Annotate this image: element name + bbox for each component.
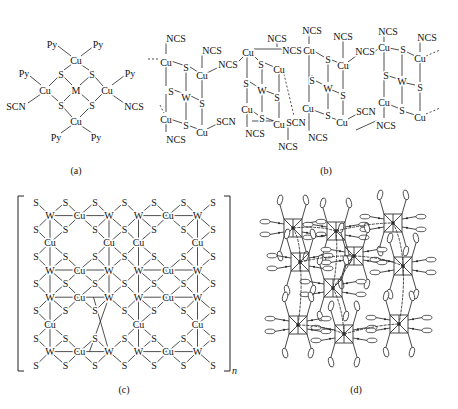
- panel-d-framework: [260, 189, 436, 367]
- atom-cu: Cu: [74, 265, 86, 276]
- atom-cu: Cu: [242, 47, 254, 58]
- atom-s: S: [181, 305, 187, 316]
- atom-s: S: [92, 333, 98, 344]
- panel-c-caption: (c): [118, 384, 129, 396]
- panel-b-structure: NCSCuNCSSCuNCSSWSCuSCuSCNNCSCuNCSNCSSCuS…: [148, 25, 440, 178]
- atom-w: W: [134, 210, 144, 221]
- atom-cu: Cu: [160, 114, 172, 125]
- atom-w: W: [104, 346, 114, 357]
- atom-s: S: [92, 360, 98, 371]
- atom-s: S: [89, 69, 95, 80]
- atom-cu: Cu: [273, 119, 285, 130]
- atom-py: Py: [125, 68, 136, 79]
- atom-cu: Cu: [192, 237, 204, 248]
- atom-s: S: [63, 251, 69, 262]
- atom-ncs: NCS: [166, 33, 185, 44]
- atom-s: S: [210, 197, 216, 208]
- atom-s: S: [325, 54, 331, 65]
- atom-s: S: [400, 44, 406, 55]
- atom-s: S: [33, 224, 39, 235]
- atom-s: S: [122, 278, 128, 289]
- atom-w: W: [193, 346, 203, 357]
- atom-s: S: [63, 278, 69, 289]
- atom-ncs: NCS: [302, 25, 321, 36]
- atom-s: S: [199, 98, 205, 109]
- atom-s: S: [181, 360, 187, 371]
- atom-s: S: [168, 86, 174, 97]
- atom-cu: Cu: [133, 319, 145, 330]
- atom-cu: Cu: [101, 85, 113, 96]
- atom-w: W: [193, 265, 203, 276]
- atom-s: S: [151, 197, 157, 208]
- atom-s: S: [151, 224, 157, 235]
- atom-s: S: [63, 224, 69, 235]
- atom-ncs: NCS: [355, 46, 374, 57]
- atom-w: W: [104, 265, 114, 276]
- atom-scn: SCN: [356, 106, 375, 117]
- atom-w: W: [181, 92, 191, 103]
- atom-ncs: NCS: [267, 33, 286, 44]
- atom-s: S: [399, 105, 405, 116]
- atom-cu: Cu: [103, 237, 115, 248]
- atom-s: S: [33, 278, 39, 289]
- atom-s: S: [33, 305, 39, 316]
- atom-w: W: [134, 265, 144, 276]
- atom-cu: Cu: [39, 85, 51, 96]
- atom-cu: Cu: [273, 64, 285, 75]
- atom-s: S: [33, 251, 39, 262]
- atom-scn: SCN: [6, 101, 25, 112]
- atom-s: S: [92, 224, 98, 235]
- atom-s: S: [92, 305, 98, 316]
- atom-ncs: NCS: [376, 120, 395, 131]
- atom-cu: Cu: [160, 57, 172, 68]
- atom-s: S: [92, 251, 98, 262]
- atom-s: S: [89, 100, 95, 111]
- atom-w: W: [193, 210, 203, 221]
- atom-s: S: [417, 82, 423, 93]
- atom-cu: Cu: [162, 346, 174, 357]
- atom-cu: Cu: [378, 97, 390, 108]
- atom-s: S: [210, 360, 216, 371]
- atom-w: W: [104, 210, 114, 221]
- atom-s: S: [210, 333, 216, 344]
- atom-s: S: [340, 90, 346, 101]
- atom-s: S: [383, 70, 389, 81]
- atom-cu: Cu: [414, 112, 426, 123]
- atom-ncs: NCS: [124, 101, 143, 112]
- atom-w: W: [397, 76, 407, 87]
- atom-s: S: [259, 113, 265, 124]
- atom-cu: Cu: [162, 265, 174, 276]
- atom-cu: Cu: [133, 237, 145, 248]
- atom-s: S: [183, 120, 189, 131]
- atom-py: Py: [47, 39, 58, 50]
- atom-ncs: NCS: [218, 59, 237, 70]
- panel-d-packing-view: (d): [260, 189, 436, 396]
- atom-s: S: [63, 333, 69, 344]
- panel-a-caption: (a): [70, 165, 81, 177]
- atom-s: S: [243, 78, 249, 89]
- atom-ncs: NCS: [282, 45, 301, 56]
- atom-scn: SCN: [216, 116, 235, 127]
- atom-cu: Cu: [44, 237, 56, 248]
- atom-w: W: [134, 292, 144, 303]
- atom-py: Py: [91, 132, 102, 143]
- atom-s: S: [151, 278, 157, 289]
- panel-c-atoms: SSSSSSSWCuWWCuWSSSSSSSCuCuCuCuSSSSSSSWCu…: [33, 197, 216, 371]
- figure: PyPyCuPySSPyCuMCuSCNSSNCSCuPyPy (a): [0, 0, 458, 409]
- atom-ncs: NCS: [378, 26, 397, 37]
- atom-s: S: [122, 305, 128, 316]
- atom-s: S: [63, 197, 69, 208]
- atom-cu: Cu: [241, 104, 253, 115]
- atom-w: W: [193, 292, 203, 303]
- atom-s: S: [181, 251, 187, 262]
- atom-s: S: [151, 251, 157, 262]
- atom-s: S: [274, 92, 280, 103]
- atom-s: S: [210, 224, 216, 235]
- atom-s: S: [63, 305, 69, 316]
- atom-s: S: [151, 333, 157, 344]
- atom-cu: Cu: [162, 292, 174, 303]
- atom-s: S: [325, 110, 331, 121]
- atom-w: W: [134, 346, 144, 357]
- atom-w: W: [104, 292, 114, 303]
- atom-py: Py: [51, 132, 62, 143]
